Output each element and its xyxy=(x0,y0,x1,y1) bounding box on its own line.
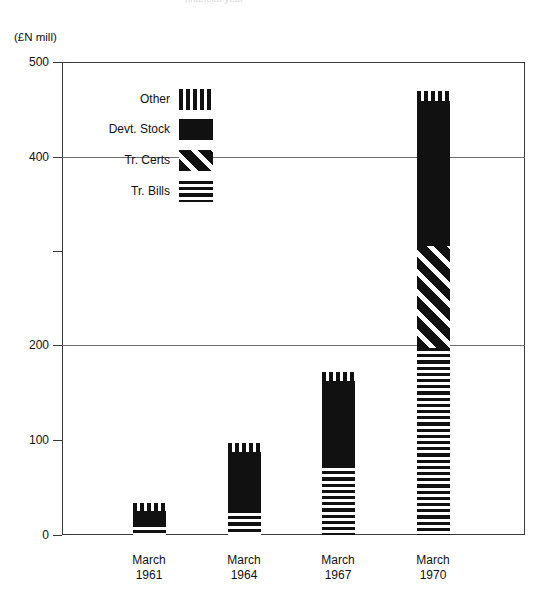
xlabel-month: March xyxy=(293,553,383,568)
bar-march-1961 xyxy=(133,503,166,535)
xlabel-march-1961: March 1961 xyxy=(104,553,194,583)
bar-segment-tr-bills xyxy=(228,510,261,535)
bars-layer xyxy=(0,0,546,535)
ytick-0 xyxy=(53,535,62,536)
bar-segment-other xyxy=(228,443,261,452)
bar-segment-tr-bills xyxy=(322,465,355,535)
bar-segment-other xyxy=(417,91,450,101)
xlabel-march-1970: March 1970 xyxy=(388,553,478,583)
xlabel-year: 1970 xyxy=(388,568,478,583)
xlabel-year: 1964 xyxy=(199,568,289,583)
bar-segment-tr-certs xyxy=(417,246,450,348)
xlabel-march-1964: March 1964 xyxy=(199,553,289,583)
bar-segment-devt-stock xyxy=(133,511,166,524)
xlabel-month: March xyxy=(104,553,194,568)
xlabel-year: 1967 xyxy=(293,568,383,583)
chart-canvas: financial year (£N mill) 500 400 200 100… xyxy=(0,0,546,599)
bar-segment-other xyxy=(322,372,355,381)
xlabel-month: March xyxy=(388,553,478,568)
bar-segment-tr-bills xyxy=(417,348,450,535)
bar-segment-other xyxy=(133,503,166,511)
bar-march-1967 xyxy=(322,372,355,535)
bar-segment-devt-stock xyxy=(228,452,261,510)
xlabel-month: March xyxy=(199,553,289,568)
bar-segment-devt-stock xyxy=(322,381,355,465)
bar-segment-tr-bills xyxy=(133,524,166,535)
bar-march-1964 xyxy=(228,443,261,535)
xlabel-march-1967: March 1967 xyxy=(293,553,383,583)
xlabel-year: 1961 xyxy=(104,568,194,583)
bar-march-1970 xyxy=(417,91,450,535)
bar-segment-devt-stock xyxy=(417,101,450,246)
